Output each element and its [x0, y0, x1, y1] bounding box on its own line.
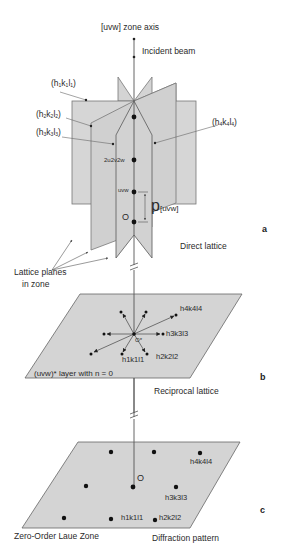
- vector-label-h2k2l2: h2k2l2: [156, 353, 178, 361]
- lattice-point-2u2v2w: [132, 158, 137, 163]
- leader-dot: [90, 125, 92, 127]
- incident-beam-dot: [133, 56, 136, 59]
- panel-letter-a: a: [262, 225, 267, 234]
- plane-label-h3k3l3: (h3k3l3): [36, 128, 61, 137]
- period-subscript: [uvw]: [160, 204, 179, 213]
- point-label-2u2v2w: 2u2v2w: [104, 157, 125, 163]
- spot-label-h4k4l4: h4k4l4: [190, 458, 212, 466]
- plane-label-h4k4l4: (h4k4l4): [212, 118, 237, 127]
- leader-h1k1l1: [60, 92, 86, 100]
- panel-c-diffraction-pattern: [22, 419, 240, 528]
- zone-axis-tip-dot: [133, 38, 136, 41]
- axis-break-mark: [130, 267, 138, 270]
- diffraction-pattern-caption: Diffraction pattern: [152, 534, 219, 543]
- vector-label-h4k4l4: h4k4l4: [180, 305, 202, 313]
- plane-label-h2k2l2: (h2k2l2): [36, 110, 61, 119]
- spot-label-h1k1l1: h1k1l1: [121, 514, 143, 522]
- vector-label-h3k3l3: h3k3l3: [166, 330, 188, 338]
- zone-axis-label: [uvw] zone axis: [101, 23, 159, 32]
- panel-letter-b: b: [260, 373, 266, 382]
- period-symbol: p: [151, 197, 160, 214]
- leader-dot: [112, 143, 114, 145]
- plane-fan-left: [118, 77, 134, 101]
- zolz-label: Zero-Order Laue Zone: [14, 532, 99, 541]
- lattice-planes-arrow-1: [52, 240, 72, 270]
- reciprocal-layer-label: (uvw)* layer with n = 0: [34, 370, 113, 378]
- reciprocal-layer-plane: [25, 294, 242, 378]
- zone-axis-diagram: [uvw] zone axis Incident beam (h1k1l1) (…: [0, 0, 282, 559]
- point-label-origin: O: [122, 213, 129, 222]
- spot-label-h2k2l2: h2k2l2: [159, 514, 181, 522]
- diffraction-origin-label: O: [137, 474, 144, 483]
- vector-label-h1k1l1: h1k1l1: [122, 356, 144, 364]
- subscript: 4: [231, 121, 234, 127]
- lattice-point-origin: [132, 220, 137, 225]
- subscript: 2: [55, 113, 58, 119]
- plane-label-h1k1l1: (h1k1l1): [51, 79, 76, 88]
- reciprocal-lattice-caption: Reciprocal lattice: [154, 387, 219, 396]
- leader-dot: [154, 142, 156, 144]
- subscript: 1: [70, 82, 73, 88]
- period-label: p[uvw]: [151, 198, 179, 214]
- lattice-point-uvw: [132, 190, 137, 195]
- direct-lattice-caption: Direct lattice: [180, 242, 227, 251]
- lattice-point-top: [132, 115, 137, 120]
- lattice-planes-label-line2: in zone: [22, 280, 49, 289]
- lattice-planes-label-line1: Lattice planes: [14, 268, 66, 277]
- leader-dot: [85, 99, 87, 101]
- incident-beam-label: Incident beam: [142, 47, 195, 56]
- subscript: 3: [55, 131, 58, 137]
- reciprocal-origin-label: O*: [135, 337, 142, 343]
- spot-label-h3k3l3: h3k3l3: [165, 494, 187, 502]
- panel-letter-c: c: [260, 506, 265, 515]
- point-label-uvw: uvw: [118, 187, 129, 193]
